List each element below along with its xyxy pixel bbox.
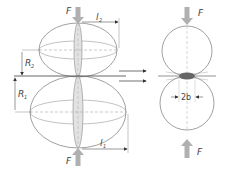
svg-text:F: F (66, 6, 72, 16)
svg-text:2b: 2b (181, 93, 191, 102)
svg-text:F: F (198, 8, 204, 18)
force-arrow-top-left: F (66, 6, 84, 24)
svg-text:1: 1 (24, 94, 27, 100)
svg-text:F: F (197, 147, 203, 157)
force-arrow-bottom-left: F (66, 148, 84, 166)
radius-1-dimension: R 1 (15, 78, 32, 112)
top-ellipsoid (39, 23, 117, 77)
svg-text:2: 2 (99, 17, 102, 23)
svg-text:2: 2 (31, 63, 34, 69)
bottom-circle-side-view (160, 76, 214, 130)
contact-area (179, 73, 195, 80)
bottom-ellipsoid (30, 76, 126, 148)
svg-text:F: F (66, 156, 72, 166)
contact-diagram: R 2 R 1 F l 2 F l 1 (0, 0, 227, 170)
svg-text:1: 1 (103, 143, 106, 149)
force-arrow-top-right: F (181, 7, 204, 25)
radius-2-dimension: R 2 (22, 50, 40, 75)
top-circle-side-view (162, 26, 212, 76)
force-arrow-bottom-right: F (181, 139, 203, 158)
